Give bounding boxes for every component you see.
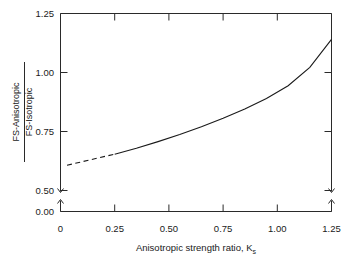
series-segment-dashed xyxy=(67,154,115,165)
x-tick-label-0.25: 0.25 xyxy=(105,223,124,234)
y-tick-label-0.75: 0.75 xyxy=(36,126,55,137)
x-tick-label-1.25: 1.25 xyxy=(322,223,341,234)
chart-svg: 1.25 1.00 0.75 0.50 0.00 0 0.25 0.50 0.7… xyxy=(0,0,357,261)
data-series-group xyxy=(67,39,332,165)
x-ticks-bottom xyxy=(61,205,332,212)
y-tick-label-0.50: 0.50 xyxy=(36,185,55,196)
plot-frame xyxy=(61,14,332,212)
x-tick-label-1.00: 1.00 xyxy=(268,223,287,234)
x-tick-label-0.75: 0.75 xyxy=(214,223,233,234)
y-tick-label-1.00: 1.00 xyxy=(36,67,55,78)
chart-figure: 1.25 1.00 0.75 0.50 0.00 0 0.25 0.50 0.7… xyxy=(0,0,357,261)
x-tick-labels: 0 0.25 0.50 0.75 1.00 1.25 xyxy=(58,223,341,234)
x-axis-title-subscript: s xyxy=(253,248,257,255)
x-ticks-top xyxy=(115,14,278,21)
y-axis-title-numerator: FS-Anisotropic xyxy=(11,82,21,142)
x-axis-title: Anisotropic strength ratio, Ks xyxy=(136,242,257,255)
x-tick-label-0.50: 0.50 xyxy=(160,223,179,234)
y-axis-title: FS-Anisotropic FS-Isotropic xyxy=(11,62,34,162)
y-axis-title-denominator: FS-Isotropic xyxy=(24,87,34,136)
y-tick-labels: 1.25 1.00 0.75 0.50 0.00 xyxy=(36,8,55,217)
y-tick-label-0.00: 0.00 xyxy=(36,206,55,217)
x-tick-label-0: 0 xyxy=(58,223,63,234)
y-tick-label-1.25: 1.25 xyxy=(36,8,55,19)
series-segment-solid xyxy=(115,39,332,154)
y-ticks-left xyxy=(61,14,68,191)
x-axis-title-text: Anisotropic strength ratio, K xyxy=(136,242,253,253)
